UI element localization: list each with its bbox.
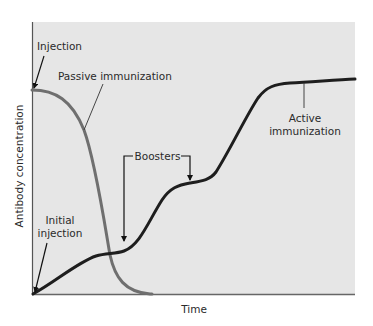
plot-area <box>32 22 355 295</box>
initial-label-line2: injection <box>38 227 83 239</box>
active-label-line1: Active <box>289 112 321 124</box>
boosters-label: Boosters <box>135 150 181 162</box>
y-axis-label: Antibody concentration <box>13 105 25 228</box>
active-label-line2: immunization <box>269 125 341 137</box>
initial-label-line1: Initial <box>45 214 74 226</box>
injection-label: Injection <box>37 40 82 52</box>
x-axis-label: Time <box>180 303 207 315</box>
passive-immunization-label: Passive immunization <box>58 70 172 82</box>
immunization-diagram: Injection Passive immunization Initial i… <box>0 0 373 326</box>
